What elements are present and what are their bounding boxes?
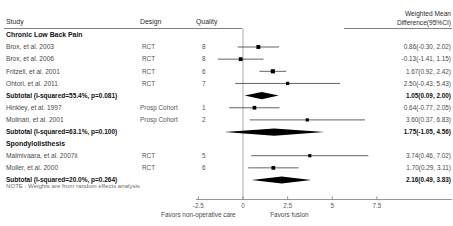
study-quality: 7	[202, 80, 206, 87]
study-quality: 8	[202, 43, 206, 50]
point-estimate-marker	[256, 45, 260, 49]
study-label: Brox, et al. 2003	[6, 43, 54, 50]
study-ci-text: 3.60(0.37, 6.83)	[406, 116, 451, 124]
group-heading: Chronic Low Back Pain	[6, 31, 83, 38]
study-quality: 2	[202, 116, 206, 123]
study-design: Prosp Cohort	[140, 116, 178, 124]
point-estimate-marker	[239, 57, 243, 61]
point-estimate-marker	[306, 118, 309, 121]
header-effect-line2: Difference(95%CI)	[397, 19, 451, 27]
study-label: Moller, et al. 2000	[6, 164, 58, 171]
study-label: Fritzell, et al. 2001	[6, 68, 60, 75]
study-ci-text: 1.67(0.92, 2.42)	[406, 68, 451, 76]
subtotal-label: Subtotal (I-squared=55.4%, p=0.081)	[6, 92, 117, 100]
study-design: RCT	[142, 80, 155, 87]
study-design: RCT	[142, 164, 155, 171]
x-axis-tick-label: 5	[330, 202, 334, 209]
study-label: Brox, et al. 2006	[6, 55, 54, 62]
study-ci-text: 1.70(0.29, 3.11)	[406, 164, 451, 172]
study-label: Hinkley, et al. 1997	[6, 104, 62, 112]
study-ci-text: 0.64(-0.77, 2.05)	[404, 104, 451, 112]
subtotal-ci-text: 1.75(-1.05, 4.56)	[404, 128, 451, 136]
x-axis-tick-label: 2.5	[283, 202, 292, 209]
study-ci-text: 0.86(-0.30, 2.02)	[404, 43, 451, 51]
point-estimate-marker	[253, 106, 257, 110]
point-estimate-marker	[286, 82, 289, 85]
axis-label-left: Favors non-operative care	[161, 211, 236, 219]
point-estimate-marker	[271, 69, 275, 73]
study-design: RCT	[142, 55, 155, 62]
subtotal-label: Subtotal (I-squared=63.1%, p=0.100)	[6, 128, 117, 136]
summary-diamond	[245, 92, 279, 99]
study-quality: 5	[202, 152, 206, 159]
study-design: Prosp Cohort	[140, 104, 178, 112]
study-quality: 6	[202, 164, 206, 171]
study-label: Malmivaara, et al. 2007ii	[6, 152, 78, 159]
study-design: RCT	[142, 43, 155, 50]
study-ci-text: -0.13(-1.41, 1.15)	[402, 55, 451, 63]
header-design: Design	[140, 18, 162, 26]
x-axis-tick-label: 0	[241, 202, 245, 209]
summary-diamond	[224, 128, 324, 135]
subtotal-ci-text: 1.05(0.09, 2.00)	[406, 92, 451, 100]
x-axis-tick-label: -2.5	[193, 202, 204, 209]
study-design: RCT	[142, 68, 155, 75]
header-quality: Quality	[196, 18, 218, 26]
group-heading: Spondylolisthesis	[6, 140, 65, 148]
study-quality: 6	[202, 68, 206, 75]
note-text: NOTE : Weights are from random effects a…	[6, 182, 140, 189]
study-label: Molinari, et al. 2001	[6, 116, 64, 123]
forest-plot: StudyDesignQualityWeighted MeanDifferenc…	[0, 0, 453, 226]
axis-label-right: Favors fusion	[270, 211, 309, 218]
header-study: Study	[6, 18, 24, 26]
header-effect-line1: Weighted Mean	[405, 10, 451, 18]
study-label: Ohtori, et al. 2011	[6, 80, 58, 87]
x-axis-tick-label: 7.5	[372, 202, 381, 209]
study-ci-text: 3.74(0.46, 7.02)	[406, 152, 451, 160]
subtotal-ci-text: 2.16(0.49, 3.83)	[406, 176, 451, 184]
study-quality: 8	[202, 55, 206, 62]
study-quality: 1	[202, 104, 206, 111]
point-estimate-marker	[308, 154, 311, 157]
summary-diamond	[252, 176, 312, 183]
point-estimate-marker	[271, 166, 275, 170]
study-ci-text: 2.50(-0.43, 5.43)	[404, 80, 451, 88]
study-design: RCT	[142, 152, 155, 159]
